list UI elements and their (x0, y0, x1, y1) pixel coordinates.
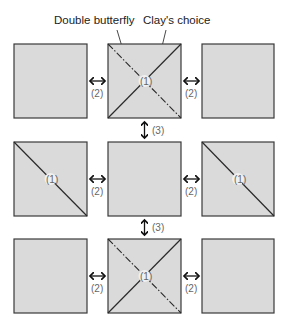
square-r1-right (202, 44, 274, 118)
square-r2-left: (1) (14, 142, 87, 216)
step-label-fold: (1) (140, 271, 152, 282)
step-label-fold: (1) (140, 76, 152, 87)
step-label-side: (2) (185, 186, 197, 197)
square-r1-middle: (1) (108, 44, 181, 118)
step-label-side: (2) (185, 283, 197, 294)
step-label-vertical: (3) (152, 125, 164, 136)
quilt-block-diagram: Double butterfly Clay's choice (1) (2) (… (0, 0, 287, 315)
square-r3-left (14, 239, 87, 313)
square-r1-left (14, 44, 87, 118)
square-r2-right: (1) (202, 142, 274, 216)
label-clays-choice: Clay's choice (143, 14, 210, 26)
step-label-side: (2) (91, 283, 103, 294)
row-1: (1) (2) (2) (14, 44, 274, 118)
square-r2-middle (108, 142, 181, 216)
square-r3-right (202, 239, 274, 313)
row-2: (1) (1) (2) (2) (14, 142, 274, 216)
step-label-fold: (1) (46, 174, 58, 185)
square-r3-middle: (1) (108, 239, 181, 313)
step-label-side: (2) (91, 88, 103, 99)
row-3: (1) (2) (2) (14, 239, 274, 313)
step-label-vertical: (3) (152, 222, 164, 233)
step-label-side: (2) (185, 88, 197, 99)
label-double-butterfly: Double butterfly (54, 14, 135, 26)
step-label-side: (2) (91, 186, 103, 197)
step-label-fold: (1) (234, 174, 246, 185)
